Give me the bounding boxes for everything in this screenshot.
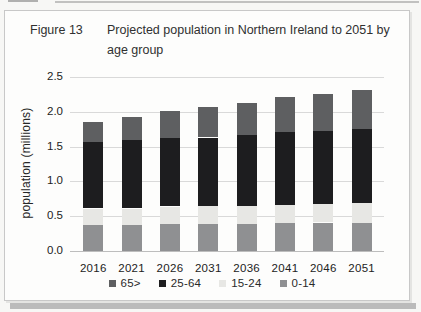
x-axis-label: 2021 xyxy=(111,262,153,274)
gridline xyxy=(70,147,384,148)
legend-swatch-icon xyxy=(159,280,166,287)
bar-segment-25-64-2036 xyxy=(237,135,257,206)
bar-segment-25-64-2041 xyxy=(275,132,295,205)
x-axis-label: 2051 xyxy=(341,262,383,274)
bar-segment-15-24-2016 xyxy=(83,209,103,226)
bar-segment-15-24-2031 xyxy=(198,206,218,224)
bar-segment-15-24-2041 xyxy=(275,205,295,223)
bar-segment-0-14-2016 xyxy=(83,225,103,251)
x-axis-line xyxy=(70,251,384,252)
bar-segment-25-64-2016 xyxy=(83,142,103,208)
x-axis-label: 2016 xyxy=(72,262,114,274)
bar-segment-0-14-2031 xyxy=(198,224,218,251)
scan-shadow-bottom xyxy=(10,303,416,309)
bar-segment-25-64-2021 xyxy=(122,140,142,208)
figure-title-row: Figure 13 Projected population in Northe… xyxy=(30,21,407,60)
y-tick-label: 1.5 xyxy=(29,140,63,152)
x-axis-label: 2046 xyxy=(302,262,344,274)
bar-segment-65>-2041 xyxy=(275,97,295,132)
legend-label: 0-14 xyxy=(292,277,316,289)
bar-segment-0-14-2026 xyxy=(160,224,180,251)
bar-segment-0-14-2041 xyxy=(275,223,295,251)
legend-item-25-64: 25-64 xyxy=(159,277,201,289)
bar-segment-65>-2051 xyxy=(352,90,372,129)
figure-title-line1: Projected population in Northern Ireland… xyxy=(107,21,407,41)
legend-item-65>: 65> xyxy=(109,277,141,289)
bar-segment-65>-2016 xyxy=(83,122,103,142)
chart-legend: 65>25-6415-240-14 xyxy=(55,277,369,289)
bar-segment-65>-2026 xyxy=(160,111,180,138)
scan-artifact-top-streak xyxy=(55,1,419,3)
bar-segment-25-64-2031 xyxy=(198,138,218,206)
x-axis-label: 2031 xyxy=(187,262,229,274)
y-tick-label: 2.5 xyxy=(29,70,63,82)
gridline xyxy=(70,77,384,78)
legend-label: 65> xyxy=(121,277,141,289)
y-tick-label: 2.0 xyxy=(29,105,63,117)
y-tick-label: 0.0 xyxy=(29,244,63,256)
scan-artifact-top-left xyxy=(8,0,38,2)
figure-title: Projected population in Northern Ireland… xyxy=(107,21,407,60)
bar-segment-0-14-2021 xyxy=(122,225,142,251)
legend-item-15-24: 15-24 xyxy=(219,277,261,289)
x-axis-label: 2026 xyxy=(149,262,191,274)
bar-segment-15-24-2026 xyxy=(160,207,180,224)
gridline xyxy=(70,216,384,217)
bar-segment-25-64-2046 xyxy=(313,131,333,204)
y-tick-label: 1.0 xyxy=(29,174,63,186)
bar-segment-0-14-2046 xyxy=(313,223,333,252)
bar-segment-0-14-2036 xyxy=(237,224,257,251)
bar-segment-15-24-2046 xyxy=(313,204,333,223)
legend-item-0-14: 0-14 xyxy=(280,277,316,289)
bar-segment-25-64-2026 xyxy=(160,138,180,206)
bar-segment-25-64-2051 xyxy=(352,129,372,203)
legend-swatch-icon xyxy=(219,280,226,287)
bar-segment-65>-2036 xyxy=(237,103,257,134)
x-axis-label: 2036 xyxy=(226,262,268,274)
y-axis-title: population (millions) xyxy=(19,108,33,219)
legend-label: 25-64 xyxy=(171,277,201,289)
gridline xyxy=(70,181,384,182)
y-tick-label: 0.5 xyxy=(29,209,63,221)
bar-segment-65>-2046 xyxy=(313,94,333,130)
legend-swatch-icon xyxy=(280,280,287,287)
legend-label: 15-24 xyxy=(231,277,261,289)
bar-segment-15-24-2051 xyxy=(352,203,372,223)
bar-segment-65>-2021 xyxy=(122,117,142,141)
bar-segment-15-24-2036 xyxy=(237,206,257,224)
bar-segment-0-14-2051 xyxy=(352,223,372,252)
screenshot-root: { "figure": { "label": "Figure 13", "tit… xyxy=(0,0,421,312)
legend-swatch-icon xyxy=(109,280,116,287)
bar-segment-15-24-2021 xyxy=(122,209,142,225)
figure-label: Figure 13 xyxy=(30,21,107,60)
x-axis-label: 2041 xyxy=(264,262,306,274)
bar-segment-65>-2031 xyxy=(198,107,218,138)
gridline xyxy=(70,112,384,113)
figure-title-line2: age group xyxy=(107,41,407,61)
